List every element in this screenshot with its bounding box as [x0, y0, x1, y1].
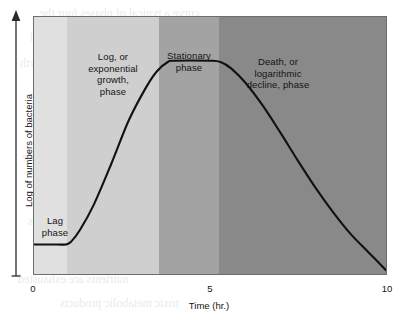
x-axis-title-text: Time (hr.) [189, 300, 229, 311]
y-axis-arrow-icon [10, 10, 22, 282]
x-axis-title: Time (hr.) [0, 300, 406, 311]
phase-label-lag: Lag phase [33, 215, 84, 238]
phase-label-stationary: Stationary phase [159, 50, 219, 73]
y-axis-title: Log of numbers of bacteria [23, 61, 34, 241]
phase-label-death: Death, or logarithmic decline, phase [226, 56, 330, 91]
y-axis: Log of numbers of bacteria [0, 10, 33, 282]
plot-area: Lag phase Log, or exponential growth, ph… [33, 16, 387, 275]
phase-label-log: Log, or exponential growth, phase [69, 51, 157, 97]
bacterial-growth-curve-figure: curve a typical of phases four the mediu… [0, 0, 406, 323]
x-tick-label-10: 10 [375, 283, 399, 294]
x-tick-label-0: 0 [21, 283, 45, 294]
x-tick-label-5: 5 [198, 283, 222, 294]
